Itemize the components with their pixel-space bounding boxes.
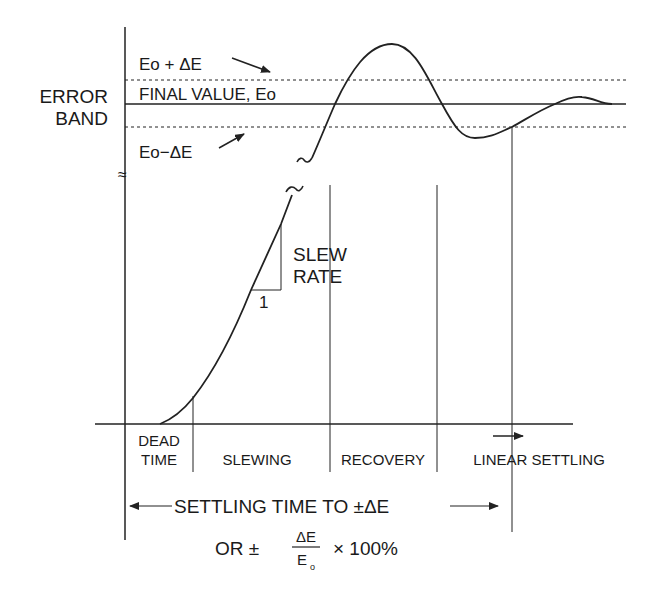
phase-slewing: SLEWING: [222, 451, 291, 468]
final-value-label: FINAL VALUE, Eo: [139, 85, 276, 104]
settling-multiplier: × 100%: [333, 538, 398, 559]
error-band-label-line1: ERROR: [39, 86, 108, 107]
error-band-label-line2: BAND: [55, 108, 108, 129]
curve-break-icon-upper: [297, 158, 312, 162]
lower-band-arrow-icon: [219, 134, 244, 148]
phase-linear-settling: LINEAR SETTLING: [473, 451, 605, 468]
fraction-denominator: E: [297, 551, 307, 568]
fraction-numerator: ΔE: [296, 528, 316, 545]
settling-time-diagram: ≈ ERROR BAND Eo + ΔE FINAL VALUE, Eo Eo−…: [0, 0, 659, 604]
settling-time-label: SETTLING TIME TO ±ΔE: [174, 496, 389, 517]
upper-band-arrow-icon: [232, 58, 270, 72]
phase-dead-time-line2: TIME: [141, 451, 177, 468]
slew-rate-label-line1: SLEW: [293, 244, 347, 265]
fraction-denominator-sub: o: [310, 562, 315, 572]
curve-break-icon-lower: [286, 186, 303, 192]
slew-rate-label-line2: RATE: [293, 266, 342, 287]
response-curve-upper: [312, 44, 612, 158]
response-curve-lower: [160, 195, 292, 424]
upper-band-label: Eo + ΔE: [139, 55, 202, 74]
slew-run-label: 1: [259, 293, 268, 312]
lower-band-label: Eo−ΔE: [139, 143, 192, 162]
phase-recovery: RECOVERY: [341, 451, 425, 468]
axis-break-icon: ≈: [118, 166, 127, 183]
settling-or-prefix: OR ±: [215, 538, 259, 559]
phase-dead-time-line1: DEAD: [138, 432, 180, 449]
